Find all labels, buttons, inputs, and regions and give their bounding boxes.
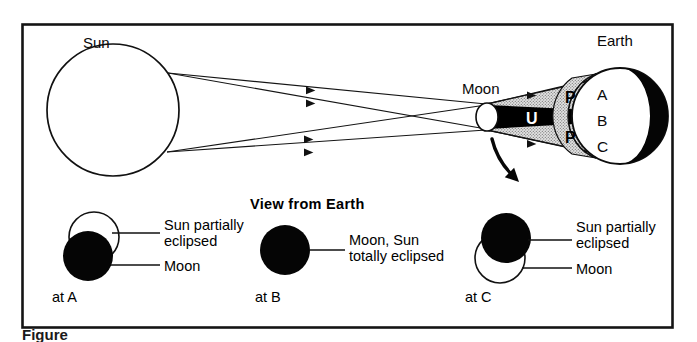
panel-c-callout-sun-line2: eclipsed [576,235,629,251]
earth-point-a: A [597,86,608,103]
earth-label: Earth [597,32,633,49]
penumbra-label-upper: P [565,89,576,106]
sun-body [47,44,179,176]
panel-a-moon-disc [63,231,113,281]
penumbra-label-lower: P [565,129,576,146]
umbra-label: U [526,110,538,127]
panel-c-position-label: at C [465,289,492,305]
earth-point-b: B [597,112,607,129]
panel-b-callout-line2: totally eclipsed [349,248,444,264]
panel-a-callout-sun-line2: eclipsed [164,233,217,249]
earth-point-c: C [597,138,608,155]
panel-c-callout-sun-line1: Sun partially [576,219,657,235]
sun-label: Sun [83,34,110,51]
panel-b-position-label: at B [255,289,281,305]
view-from-earth-title: View from Earth [250,196,365,212]
moon-label: Moon [462,80,500,97]
eclipse-figure: Sun Moon Earth U P P A B C View from Ear… [0,0,697,342]
solar-eclipse-diagram: Sun Moon Earth U P P A B C View from Ear… [0,0,697,342]
panel-a-callout-moon: Moon [164,258,200,274]
panel-b-callout-line1: Moon, Sun [349,232,419,248]
panel-c-callout-moon: Moon [576,261,612,277]
moon-body [476,103,498,131]
panel-c-moon-disc [481,213,531,263]
panel-b-moon-disc [260,225,310,275]
panel-a-callout-sun-line1: Sun partially [164,217,245,233]
figure-caption: Figure [22,326,68,342]
panel-a-position-label: at A [52,289,77,305]
figure-caption-clip: Figure [0,326,697,342]
